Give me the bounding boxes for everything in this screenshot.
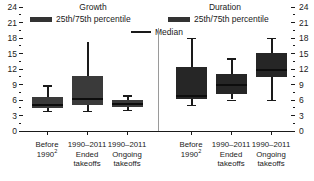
right-tick-label-3: 3 xyxy=(299,112,314,121)
category-tick-duration-3 xyxy=(271,132,272,135)
right-tick-label-15: 15 xyxy=(299,50,314,59)
whisker-cap-lower xyxy=(123,110,133,112)
right-tick-minor-45 xyxy=(293,107,295,108)
whisker-cap-upper xyxy=(43,85,53,87)
left-tick-label-0: 0 xyxy=(0,127,17,136)
left-tick-major-6 xyxy=(19,100,23,101)
left-tick-major-9 xyxy=(19,84,23,85)
category-tick-duration-1 xyxy=(191,132,192,135)
legend-duration-percentile: 25th/75th percentile xyxy=(168,15,269,24)
boxplot-figure: 24 21 18 15 12 9 6 3 0 24 21 18 15 12 9 … xyxy=(0,0,314,181)
box-iqr xyxy=(256,53,287,77)
left-tick-major-15 xyxy=(19,53,23,54)
category-label-growth-ongoing-takeoffs: 1990–2011 Ongoing takeoffs xyxy=(102,140,152,169)
category-label-duration-ongoing-takeoffs: 1990–2011 Ongoing takeoffs xyxy=(246,140,296,169)
legend-swatch-icon-growth xyxy=(30,17,52,22)
right-tick-minor-135 xyxy=(293,61,295,62)
left-tick-major-18 xyxy=(19,38,23,39)
right-tick-minor-75 xyxy=(293,92,295,93)
legend-label-median: Median xyxy=(155,28,183,37)
right-tick-label-12: 12 xyxy=(299,65,314,74)
category-line-2: Ongoing xyxy=(102,150,152,160)
left-tick-minor-195 xyxy=(19,30,21,31)
right-tick-major-3 xyxy=(291,115,295,116)
median-line xyxy=(176,95,207,97)
right-tick-minor-15 xyxy=(293,123,295,124)
whisker-cap-lower xyxy=(83,111,93,113)
right-tick-label-9: 9 xyxy=(299,81,314,90)
whisker-cap-lower xyxy=(43,111,53,113)
left-tick-minor-15 xyxy=(19,123,21,124)
right-tick-label-24: 24 xyxy=(299,3,314,12)
left-tick-major-21 xyxy=(19,22,23,23)
category-tick-duration-2 xyxy=(231,132,232,135)
median-line xyxy=(32,104,63,106)
median-line xyxy=(72,98,103,100)
legend-growth-percentile: 25th/75th percentile xyxy=(30,15,131,24)
right-tick-minor-165 xyxy=(293,45,295,46)
left-tick-minor-75 xyxy=(19,92,21,93)
median-line xyxy=(256,69,287,71)
legend-label-growth-percentile: 25th/75th percentile xyxy=(56,15,131,24)
right-tick-minor-195 xyxy=(293,30,295,31)
left-tick-major-3 xyxy=(19,115,23,116)
legend-median: Median xyxy=(131,28,183,37)
whisker-cap-lower xyxy=(227,100,237,102)
left-tick-label-15: 15 xyxy=(0,50,17,59)
right-tick-major-15 xyxy=(291,53,295,54)
x-axis-baseline xyxy=(21,131,291,132)
category-line-1: 1990–2011 xyxy=(246,140,296,150)
right-tick-label-21: 21 xyxy=(299,19,314,28)
right-tick-major-12 xyxy=(291,69,295,70)
left-tick-label-6: 6 xyxy=(0,96,17,105)
box-iqr xyxy=(72,76,103,105)
right-tick-major-9 xyxy=(291,84,295,85)
right-tick-label-6: 6 xyxy=(299,96,314,105)
legend-label-duration-percentile: 25th/75th percentile xyxy=(194,15,269,24)
left-tick-minor-225 xyxy=(19,14,21,15)
whisker-cap-upper xyxy=(187,38,197,40)
panel-divider xyxy=(158,28,159,131)
left-tick-label-9: 9 xyxy=(0,81,17,90)
right-tick-minor-105 xyxy=(293,76,295,77)
legend-swatch-icon-duration xyxy=(168,17,190,22)
right-tick-label-18: 18 xyxy=(299,34,314,43)
category-line-3: takeoffs xyxy=(102,159,152,169)
left-tick-minor-105 xyxy=(19,76,21,77)
median-line xyxy=(216,84,247,86)
whisker-cap-upper xyxy=(227,58,237,60)
whisker-cap-lower xyxy=(267,100,277,102)
footnote-marker: 2 xyxy=(198,148,201,154)
right-tick-major-6 xyxy=(291,100,295,101)
category-line-1: 1990–2011 xyxy=(102,140,152,150)
left-tick-label-21: 21 xyxy=(0,19,17,28)
median-line xyxy=(112,103,143,105)
right-tick-major-18 xyxy=(291,38,295,39)
category-line-2: Ongoing xyxy=(246,150,296,160)
panel-title-growth: Growth xyxy=(48,3,138,12)
right-tick-major-21 xyxy=(291,22,295,23)
whisker-cap-upper xyxy=(123,95,133,97)
left-tick-label-3: 3 xyxy=(0,112,17,121)
category-tick-growth-2 xyxy=(87,132,88,135)
category-line-3: takeoffs xyxy=(246,159,296,169)
category-tick-growth-3 xyxy=(127,132,128,135)
left-tick-label-24: 24 xyxy=(0,3,17,12)
left-tick-minor-165 xyxy=(19,45,21,46)
left-tick-minor-135 xyxy=(19,61,21,62)
panel-title-duration: Duration xyxy=(180,3,270,12)
legend-line-icon-median xyxy=(131,31,151,33)
whisker-cap-upper xyxy=(267,38,277,40)
category-tick-growth-1 xyxy=(47,132,48,135)
left-tick-label-12: 12 xyxy=(0,65,17,74)
right-tick-major-24 xyxy=(291,7,295,8)
whisker-cap-lower xyxy=(187,105,197,107)
footnote-marker: 2 xyxy=(54,148,57,154)
left-tick-major-12 xyxy=(19,69,23,70)
right-tick-major-0 xyxy=(291,131,295,132)
right-tick-label-0: 0 xyxy=(299,127,314,136)
left-tick-label-18: 18 xyxy=(0,34,17,43)
left-tick-minor-45 xyxy=(19,107,21,108)
right-tick-minor-225 xyxy=(293,14,295,15)
left-tick-major-24 xyxy=(19,7,23,8)
